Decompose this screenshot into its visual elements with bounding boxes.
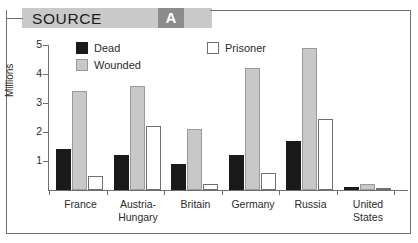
source-a-figure: SOURCE A Dead Wounded Prisoner Millions …: [0, 0, 418, 243]
bar-prisoner: [146, 126, 161, 190]
x-axis-group-separator: [222, 190, 223, 195]
bar-wounded: [245, 68, 260, 190]
x-axis-group-separator: [394, 190, 395, 195]
bar-wounded: [187, 129, 202, 190]
bar-dead: [114, 155, 129, 190]
bar-group: [229, 45, 278, 190]
x-axis-group-separator: [49, 190, 50, 195]
y-axis-line: [48, 45, 49, 191]
bar-prisoner: [318, 119, 333, 190]
bar-dead: [344, 187, 359, 190]
y-axis-tick-label: 1: [26, 154, 42, 166]
x-axis-group-separator: [107, 190, 108, 195]
y-axis-tick: [43, 103, 48, 104]
y-axis-tick: [43, 161, 48, 162]
bar-prisoner: [261, 173, 276, 190]
y-axis-tick: [43, 45, 48, 46]
bar-group: [114, 45, 163, 190]
bar-dead: [229, 155, 244, 190]
bar-prisoner: [88, 176, 103, 191]
y-axis-tick: [43, 74, 48, 75]
bar-dead: [171, 164, 186, 190]
bar-wounded: [130, 86, 145, 190]
category-label-line: Hungary: [102, 211, 175, 224]
x-axis-group-separator: [279, 190, 280, 195]
category-label-line: United: [332, 198, 405, 211]
bar-wounded: [302, 48, 317, 190]
bar-prisoner: [203, 184, 218, 190]
y-axis-tick-label: 3: [26, 96, 42, 108]
bar-chart-plot: Millions 12345 FranceAustria-HungaryBrit…: [48, 45, 408, 190]
y-axis-tick-label: 5: [26, 38, 42, 50]
bar-group: [344, 45, 393, 190]
x-axis-line: [48, 190, 408, 191]
bar-wounded: [72, 91, 87, 190]
figure-border-top-rule: [210, 10, 411, 11]
bar-prisoner: [376, 188, 391, 190]
bar-dead: [286, 141, 301, 190]
y-axis-tick: [43, 132, 48, 133]
bar-dead: [56, 149, 71, 190]
x-axis-category-label: UnitedStates: [332, 198, 405, 223]
y-axis-tick-label: 2: [26, 125, 42, 137]
y-axis-tick-label: 4: [26, 67, 42, 79]
bar-group: [286, 45, 335, 190]
bar-group: [171, 45, 220, 190]
x-axis-group-separator: [337, 190, 338, 195]
y-axis-title: Millions: [4, 64, 15, 97]
x-axis-group-separator: [164, 190, 165, 195]
bar-wounded: [360, 184, 375, 190]
bar-group: [56, 45, 105, 190]
category-label-line: States: [332, 211, 405, 224]
